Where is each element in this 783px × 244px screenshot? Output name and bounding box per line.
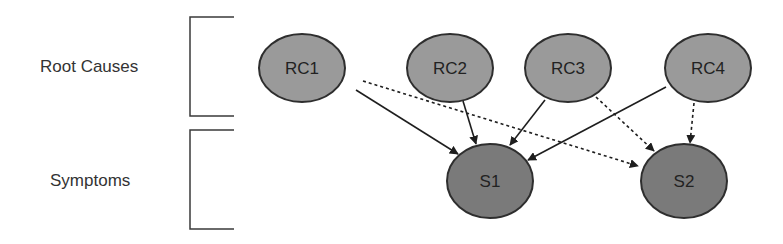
group-brackets <box>190 17 234 229</box>
node-label: S2 <box>674 172 695 191</box>
node-label: RC2 <box>433 59 467 78</box>
node-label: S1 <box>480 172 501 191</box>
bracket-symptoms <box>190 130 234 229</box>
node-label: RC4 <box>691 59 725 78</box>
bracket-root-causes <box>190 17 234 116</box>
node-s1[interactable]: S1 <box>447 144 533 218</box>
causal-diagram: RC1RC2RC3RC4S1S2 <box>0 0 783 244</box>
node-rc3[interactable]: RC3 <box>525 34 611 102</box>
node-rc2[interactable]: RC2 <box>407 34 493 102</box>
node-rc4[interactable]: RC4 <box>665 34 751 102</box>
nodes: RC1RC2RC3RC4S1S2 <box>259 34 751 218</box>
edge-rc3-to-s2 <box>596 97 654 151</box>
node-label: RC1 <box>285 59 319 78</box>
edges <box>356 81 694 166</box>
edge-rc2-to-s1 <box>463 101 476 144</box>
edge-rc4-to-s2 <box>690 103 694 143</box>
node-label: RC3 <box>551 59 585 78</box>
node-s2[interactable]: S2 <box>641 144 727 218</box>
node-rc1[interactable]: RC1 <box>259 34 345 102</box>
edge-rc3-to-s1 <box>510 100 545 145</box>
